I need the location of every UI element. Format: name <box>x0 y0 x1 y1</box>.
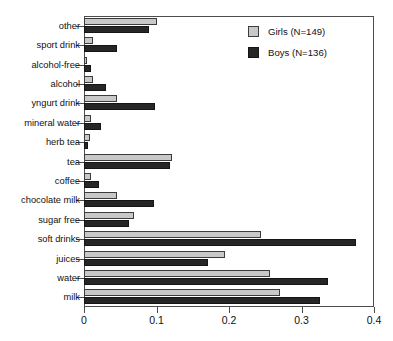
bar-girls <box>84 37 93 44</box>
bar-group <box>84 192 374 208</box>
bar-boys <box>84 65 91 72</box>
y-axis-label: coffee <box>0 176 80 186</box>
y-axis-label: yngurt drink <box>0 98 80 108</box>
y-axis-label: chocolate milk <box>0 195 80 205</box>
bar-girls <box>84 173 91 180</box>
bar-girls <box>84 18 157 25</box>
y-axis-label: tea <box>0 157 80 167</box>
bar-group <box>84 76 374 92</box>
bar-girls <box>84 212 134 219</box>
bar-boys <box>84 123 101 130</box>
x-axis-tick <box>157 307 158 313</box>
chart-legend: Girls (N=149)Boys (N=136) <box>248 23 368 65</box>
x-axis-labels: 00.10.20.30.4 <box>0 314 393 330</box>
bar-group <box>84 289 374 305</box>
x-axis-tick <box>229 307 230 313</box>
x-axis-tick-label: 0.3 <box>294 314 309 326</box>
bar-boys <box>84 239 356 246</box>
bar-boys <box>84 200 154 207</box>
y-axis-label: mineral water <box>0 118 80 128</box>
bar-girls <box>84 95 117 102</box>
bar-group <box>84 115 374 131</box>
bar-girls <box>84 251 225 258</box>
legend-swatch-girls <box>248 26 259 37</box>
legend-label: Girls (N=149) <box>268 26 325 37</box>
bar-boys <box>84 103 155 110</box>
bar-boys <box>84 84 106 91</box>
bar-boys <box>84 26 149 33</box>
y-axis-label: juices <box>0 254 80 264</box>
x-axis-tick-label: 0 <box>81 314 87 326</box>
bar-group <box>84 154 374 170</box>
y-axis-label: sugar free <box>0 215 80 225</box>
grouped-bar-chart: othersport drinkalcohol-freealcoholyngur… <box>0 0 393 341</box>
bar-group <box>84 95 374 111</box>
x-axis-tick-label: 0.1 <box>149 314 164 326</box>
y-axis-label: sport drink <box>0 40 80 50</box>
bar-girls <box>84 231 261 238</box>
bar-boys <box>84 181 99 188</box>
bar-girls <box>84 76 93 83</box>
bar-group <box>84 251 374 267</box>
y-axis-label: milk <box>0 292 80 302</box>
bar-boys <box>84 220 129 227</box>
legend-label: Boys (N=136) <box>268 47 327 58</box>
x-axis-ticks <box>84 307 374 314</box>
y-axis-label: herb tea <box>0 137 80 147</box>
x-axis-tick-label: 0.2 <box>222 314 237 326</box>
bar-boys <box>84 297 320 304</box>
x-axis-tick <box>302 307 303 313</box>
bar-girls <box>84 57 87 64</box>
bar-boys <box>84 259 208 266</box>
x-axis-tick <box>84 307 85 313</box>
bar-boys <box>84 162 170 169</box>
bar-girls <box>84 134 90 141</box>
bar-girls <box>84 192 117 199</box>
y-axis-label: other <box>0 21 80 31</box>
bar-group <box>84 134 374 150</box>
bar-group <box>84 212 374 228</box>
bar-girls <box>84 115 91 122</box>
y-axis-label: alcohol <box>0 79 80 89</box>
legend-item: Boys (N=136) <box>248 44 368 61</box>
bar-girls <box>84 289 280 296</box>
x-axis-tick-label: 0.4 <box>367 314 382 326</box>
legend-swatch-boys <box>248 47 259 58</box>
bar-boys <box>84 142 88 149</box>
x-axis-tick <box>374 307 375 313</box>
y-axis-label: water <box>0 273 80 283</box>
y-axis-labels: othersport drinkalcohol-freealcoholyngur… <box>0 16 80 307</box>
y-axis-label: alcohol-free <box>0 60 80 70</box>
y-axis-label: soft drinks <box>0 234 80 244</box>
bar-group <box>84 173 374 189</box>
legend-item: Girls (N=149) <box>248 23 368 40</box>
bar-girls <box>84 154 172 161</box>
bar-group <box>84 231 374 247</box>
bar-girls <box>84 270 270 277</box>
bar-group <box>84 270 374 286</box>
bar-boys <box>84 278 328 285</box>
bar-boys <box>84 45 117 52</box>
